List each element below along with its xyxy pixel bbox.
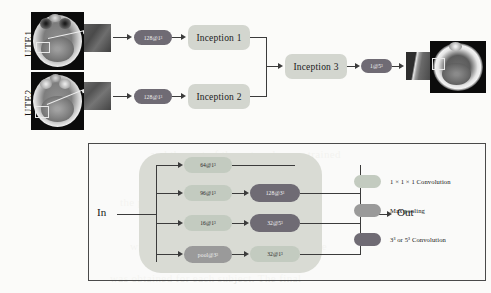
module-node-b2-second-label: 128@3³ — [266, 190, 285, 196]
legend-row-conv35: 3³ or 5³ Convolution — [354, 233, 446, 246]
module-node-b1-first: 64@1³ — [184, 157, 232, 173]
merge-line — [250, 37, 267, 38]
module-node-b2-first-label: 96@1³ — [200, 190, 216, 196]
arrow-line — [156, 254, 179, 255]
conv-pill-ute2-label: 128@1³ — [144, 94, 163, 100]
arrow-line — [156, 193, 179, 194]
arrow-head — [278, 63, 283, 69]
roi-box-output — [432, 58, 445, 70]
arrow-head — [178, 190, 183, 196]
merge-line — [300, 223, 361, 224]
module-in-label: In — [97, 206, 106, 218]
merge-line — [232, 165, 295, 166]
merge-line — [300, 193, 361, 194]
conv-pill-ute1-label: 128@1³ — [144, 35, 163, 41]
inception-3-box: Inception 3 — [285, 54, 347, 79]
arrow-line — [117, 214, 157, 215]
legend-swatch-conv35 — [354, 233, 381, 246]
roi-patch-ute1 — [84, 24, 111, 52]
merge-line — [250, 96, 267, 97]
legend-swatch-pool — [354, 204, 381, 217]
arrow-head — [127, 34, 132, 40]
legend-row-pool: Max pooling — [354, 204, 425, 217]
legend-swatch-conv1 — [354, 175, 381, 188]
mri-slice-ute1 — [31, 12, 84, 70]
roi-box-ute1 — [36, 42, 50, 53]
arrow-head — [178, 220, 183, 226]
module-node-b3-first-label: 16@1³ — [200, 220, 216, 226]
arrow-head — [355, 63, 360, 69]
module-node-b4-second-label: 32@1³ — [267, 251, 283, 257]
module-node-b2-first: 96@1³ — [184, 185, 232, 201]
arrow-line — [113, 37, 128, 38]
roi-patch-ute2 — [84, 82, 111, 110]
conv-pill-ute1: 128@1³ — [134, 30, 172, 45]
arrow-head — [178, 162, 183, 168]
module-node-b4-first: pool@3³ — [184, 246, 232, 263]
output-patch — [406, 52, 430, 80]
legend-row-conv1: 1 × 1 × 1 Convolution — [354, 175, 451, 188]
module-node-b4-first-label: pool@3³ — [198, 252, 218, 258]
arrow-head — [178, 251, 183, 257]
output-conv-pill: 1@5³ — [361, 59, 392, 73]
arrow-head — [127, 93, 132, 99]
output-slice — [430, 41, 486, 93]
inception-2-box: Inception 2 — [188, 84, 250, 109]
arrow-head — [399, 63, 404, 69]
conv-pill-ute2: 128@1³ — [134, 89, 172, 104]
arrow-head — [244, 190, 249, 196]
inception-3-label: Inception 3 — [293, 62, 338, 72]
arrow-head — [244, 251, 249, 257]
inception-2-label: Inception 2 — [196, 92, 241, 102]
legend-label-pool: Max pooling — [390, 207, 425, 214]
split-bus — [156, 165, 157, 262]
module-node-b1-first-label: 64@1³ — [200, 162, 216, 168]
arrow-line — [156, 165, 179, 166]
merge-line — [300, 254, 361, 255]
arrow-head — [244, 220, 249, 226]
legend-label-conv35: 3³ or 5³ Convolution — [390, 236, 446, 243]
figure-canvas: and the rest of the network were trained… — [0, 0, 491, 293]
mri-slice-ute2 — [31, 72, 84, 130]
module-node-b3-first: 16@1³ — [184, 215, 232, 231]
arrow-head — [181, 93, 186, 99]
module-node-b3-second-label: 32@5³ — [267, 220, 283, 226]
roi-box-ute2 — [35, 106, 49, 118]
module-node-b4-second: 32@1³ — [250, 246, 300, 262]
inception-1-box: Inception 1 — [188, 25, 250, 50]
module-node-b3-second: 32@5³ — [250, 214, 300, 232]
arrow-line — [113, 96, 128, 97]
legend-label-conv1: 1 × 1 × 1 Convolution — [390, 178, 451, 185]
inception-module-panel: In 64@1³ 96@1³ 128@3³ 16@1³ 32@ — [88, 143, 486, 281]
arrow-line — [156, 223, 179, 224]
inception-1-label: Inception 1 — [196, 33, 241, 43]
output-conv-pill-label: 1@5³ — [370, 63, 383, 69]
module-node-b2-second: 128@3³ — [250, 184, 300, 202]
arrow-head — [181, 34, 186, 40]
